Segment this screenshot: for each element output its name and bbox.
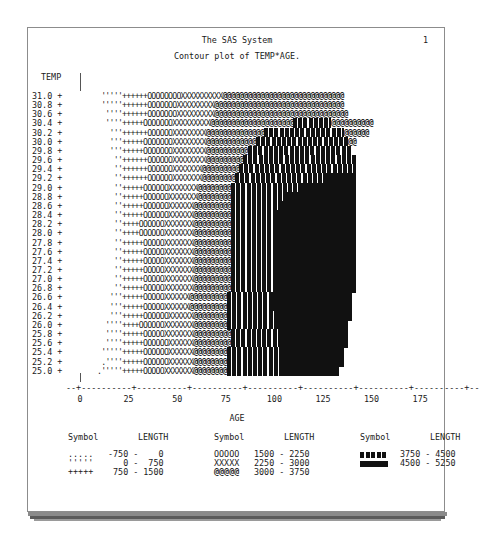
x-axis-line: --+----------+----------+----------+----… bbox=[66, 383, 479, 393]
page-number: 1 bbox=[423, 36, 428, 45]
y-axis-line bbox=[80, 373, 81, 382]
x-tick-label: 75 bbox=[221, 394, 231, 404]
legend-range: 3000 - 3750 bbox=[254, 467, 309, 477]
legend-header-length: LENGTH bbox=[138, 432, 168, 442]
x-tick-label: 175 bbox=[413, 394, 428, 404]
legend-header-symbol: Symbol bbox=[68, 432, 98, 442]
legend-symbol bbox=[360, 458, 388, 468]
plot-subtitle: Contour plot of TEMP*AGE. bbox=[28, 52, 446, 61]
solid-block-swatch bbox=[360, 461, 388, 467]
legend-header-length: LENGTH bbox=[430, 432, 460, 442]
x-tick-label: 125 bbox=[315, 394, 330, 404]
x-tick-label: 25 bbox=[124, 394, 134, 404]
y-axis-label: TEMP bbox=[41, 73, 61, 82]
output-page: The SAS System 1 Contour plot of TEMP*AG… bbox=[27, 27, 445, 512]
legend-symbol: @@@@@ bbox=[214, 467, 239, 477]
legend-range: 4500 - 5250 bbox=[400, 458, 455, 468]
y-axis-line bbox=[80, 73, 81, 91]
legend-header-symbol: Symbol bbox=[360, 432, 390, 442]
paper-stack-shadow bbox=[34, 519, 441, 521]
legend-header-length: LENGTH bbox=[284, 432, 314, 442]
y-tick-label: 25.0 + bbox=[32, 367, 62, 376]
x-tick-label: 50 bbox=[172, 394, 182, 404]
legend-symbol: +++++ bbox=[68, 467, 93, 477]
contour-row: .'''''+++++OOOOOXXXXXXX@@@@@@@@#########… bbox=[97, 367, 373, 376]
report-title: The SAS System bbox=[28, 36, 446, 45]
legend-range: 750 - 1500 bbox=[108, 467, 163, 477]
x-axis-label: AGE bbox=[28, 414, 446, 423]
hatched-block-swatch bbox=[360, 452, 388, 458]
y-axis-ticks: 31.0 +30.8 +30.6 +30.4 +30.2 +30.0 +29.8… bbox=[32, 92, 62, 376]
contour-plot-area: '''''++++++OOOOOOOOXXXXXXXXXX@@@@@@@@@@@… bbox=[97, 92, 373, 376]
x-tick-label: 0 bbox=[77, 394, 82, 404]
x-tick-label: 100 bbox=[267, 394, 282, 404]
legend-header-symbol: Symbol bbox=[214, 432, 244, 442]
x-tick-label: 150 bbox=[364, 394, 379, 404]
